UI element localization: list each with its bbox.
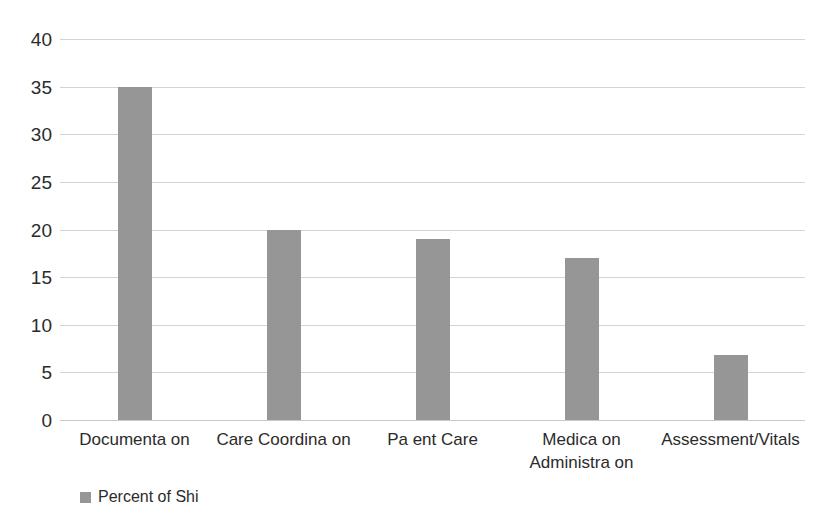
bar-slot	[209, 39, 358, 420]
bar[interactable]	[416, 239, 450, 420]
y-tick-label: 25	[4, 172, 52, 191]
bar[interactable]	[565, 258, 599, 420]
legend-swatch-icon	[80, 492, 91, 503]
x-axis: Documenta onCare Coordina onPa ent CareM…	[60, 428, 805, 480]
bar-slot	[358, 39, 507, 420]
bar-slot	[60, 39, 209, 420]
bar-slot	[656, 39, 805, 420]
y-tick-label: 10	[4, 315, 52, 334]
bars-layer	[60, 39, 805, 420]
y-tick-label: 0	[4, 411, 52, 430]
legend-label: Percent of Shi	[98, 489, 199, 505]
y-tick-label: 15	[4, 268, 52, 287]
y-tick-label: 5	[4, 363, 52, 382]
bar[interactable]	[267, 230, 301, 421]
bar[interactable]	[118, 87, 152, 420]
x-tick-label: Assessment/Vitals	[636, 428, 821, 451]
bar-slot	[507, 39, 656, 420]
legend: Percent of Shi	[80, 489, 199, 505]
y-axis: 0510152025303540	[0, 39, 52, 420]
gridline-0	[60, 420, 805, 421]
bar-chart: 0510152025303540 Documenta onCare Coordi…	[0, 0, 821, 527]
y-tick-label: 35	[4, 77, 52, 96]
y-tick-label: 30	[4, 125, 52, 144]
bar[interactable]	[714, 355, 748, 420]
y-tick-label: 20	[4, 220, 52, 239]
y-tick-label: 40	[4, 30, 52, 49]
